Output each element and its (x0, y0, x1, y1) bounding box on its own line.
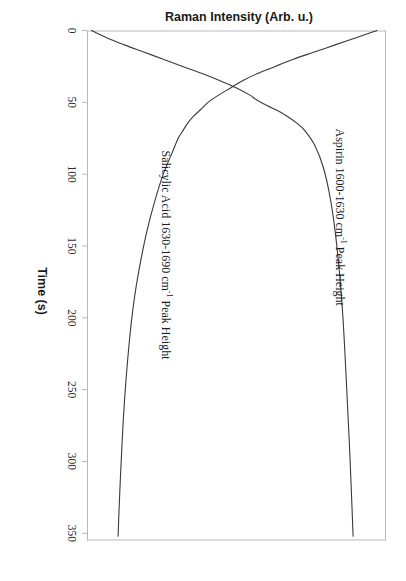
x-axis-ticks (82, 30, 87, 533)
series-label-salicylic: Salicylic Acid 1630-1690 cm-1 Peak Heigh… (158, 150, 174, 359)
rotated-chart-stage: 050100150200250300350 Time (s) Raman Int… (0, 0, 406, 581)
x-tick-label-300: 300 (66, 441, 78, 481)
series-label-aspirin: Aspirin 1600-1630 cm-1 Peak Height (332, 128, 348, 305)
x-tick-label-50: 50 (66, 82, 78, 122)
x-tick-label-0: 0 (66, 10, 78, 50)
series-label-salicylic-superscript: -1 (165, 290, 174, 297)
series-curve-1 (91, 30, 353, 536)
series-label-salicylic-prefix: Salicylic Acid 1630-1690 cm (159, 150, 173, 290)
x-tick-label-100: 100 (66, 154, 78, 194)
series-label-aspirin-suffix: Peak Height (333, 243, 347, 305)
series-label-salicylic-suffix: Peak Height (159, 297, 173, 359)
series-label-aspirin-superscript: -1 (339, 237, 348, 244)
y-axis-title: Raman Intensity (Arb. u.) (129, 9, 349, 23)
x-tick-label-200: 200 (66, 297, 78, 337)
chart-page: 050100150200250300350 Time (s) Raman Int… (0, 0, 406, 581)
x-tick-label-150: 150 (66, 225, 78, 265)
x-tick-label-250: 250 (66, 369, 78, 409)
x-tick-label-350: 350 (66, 513, 78, 553)
x-axis-title: Time (s) (35, 0, 49, 581)
series-label-aspirin-prefix: Aspirin 1600-1630 cm (333, 128, 347, 237)
